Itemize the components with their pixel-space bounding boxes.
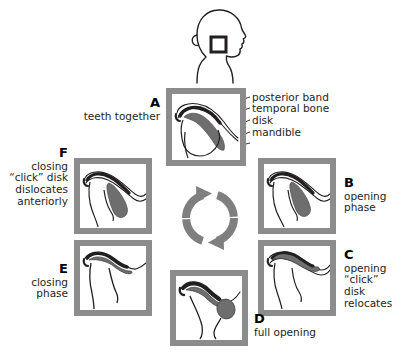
panel-d-full-opening[interactable] xyxy=(170,270,248,346)
panel-b-line-2: phase xyxy=(344,202,406,214)
callout-disk: disk xyxy=(252,114,273,126)
callout-temporal-bone: temporal bone xyxy=(252,102,329,114)
panel-e-line-2: phase xyxy=(6,288,68,300)
panel-d-letter: D xyxy=(254,312,374,327)
caption-panel-c: C opening “click” disk relocates xyxy=(344,248,408,310)
panel-a-letter: A xyxy=(52,96,160,111)
callout-mandible: mandible xyxy=(252,126,301,138)
panel-c-line-4: relocates xyxy=(344,298,408,310)
panel-d-line-1: full opening xyxy=(254,327,374,339)
caption-panel-e: E closing phase xyxy=(6,262,68,300)
head-profile-with-tmj-marker xyxy=(150,4,270,86)
panel-a-teeth-together[interactable] xyxy=(166,88,246,166)
panel-f-closing-click-disk-dislocates-anteriorly[interactable] xyxy=(74,158,152,234)
caption-panel-d: D full opening xyxy=(254,312,374,338)
panel-a-line-1: teeth together xyxy=(52,111,160,123)
caption-panel-b: B opening phase xyxy=(344,176,406,214)
tmj-cycle-figure: posterior band temporal bone disk mandib… xyxy=(0,0,410,361)
circular-cycle-arrow xyxy=(172,180,248,256)
panel-c-opening-click-disk-relocates[interactable] xyxy=(258,240,336,316)
caption-panel-a: A teeth together xyxy=(52,96,160,122)
caption-panel-f: F closing “click” disk dislocates anteri… xyxy=(2,146,68,208)
panel-b-opening-phase[interactable] xyxy=(258,158,336,234)
panel-b-letter: B xyxy=(344,176,406,191)
panel-f-line-4: anteriorly xyxy=(2,196,68,208)
panel-e-closing-phase[interactable] xyxy=(74,240,152,316)
panel-f-letter: F xyxy=(2,146,68,161)
panel-c-letter: C xyxy=(344,248,408,263)
panel-e-letter: E xyxy=(6,262,68,277)
